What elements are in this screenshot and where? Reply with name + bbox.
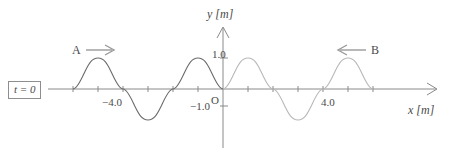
y-tick-label-positive-one: 1.0 <box>212 49 226 60</box>
y-tick-label-negative-one: −1.0 <box>190 101 210 112</box>
x-axis-label: x [m] <box>408 104 434 116</box>
wave-b-label: B <box>371 44 379 56</box>
x-axis <box>48 83 437 95</box>
y-axis-ticks <box>220 58 228 106</box>
y-axis <box>217 27 229 148</box>
y-axis-label: y [m] <box>207 8 233 20</box>
wave-a-label: A <box>72 44 81 56</box>
plot-canvas <box>0 0 452 153</box>
wave-a-direction-arrow-icon <box>86 45 114 55</box>
x-tick-label-positive-four: 4.0 <box>321 97 335 108</box>
time-annotation-box: t = 0 <box>8 81 41 99</box>
x-tick-label-negative-four: −4.0 <box>102 97 122 108</box>
wave-diagram-figure: t = 0 y [m] x [m] 1.0 −1.0 −4.0 4.0 O A … <box>0 0 452 153</box>
origin-label: O <box>211 95 219 106</box>
wave-b-direction-arrow-icon <box>338 45 366 55</box>
